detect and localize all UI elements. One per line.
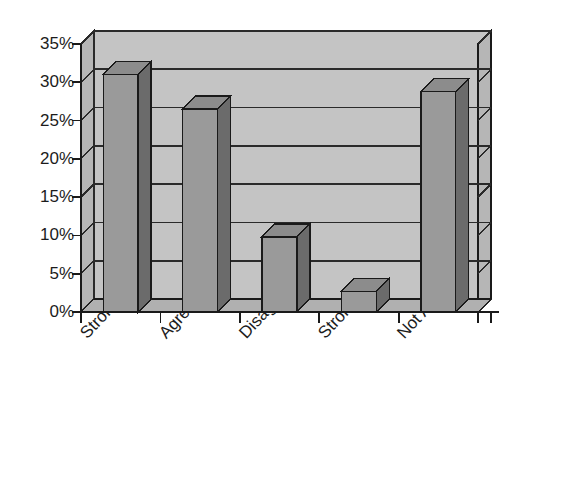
left-wall (81, 31, 94, 312)
bar-0 (103, 62, 151, 312)
plot-area (0, 0, 578, 495)
bar-side-1 (218, 96, 231, 312)
bar-side-4 (456, 78, 469, 312)
bar-side-0 (138, 62, 151, 312)
bar-front-0 (103, 75, 138, 312)
bar-4 (421, 78, 469, 312)
bar-front-1 (183, 109, 218, 312)
right-wall (478, 31, 491, 312)
bar-front-3 (341, 291, 376, 312)
bar-3 (341, 278, 389, 312)
bar-2 (262, 224, 310, 312)
bar-1 (183, 96, 231, 312)
chart-container: 0%5%10%15%20%25%30%35% Strongly AgreeAgr… (0, 0, 578, 495)
bar-front-4 (421, 91, 456, 312)
bar-front-2 (262, 237, 297, 312)
bar-side-2 (297, 224, 310, 312)
